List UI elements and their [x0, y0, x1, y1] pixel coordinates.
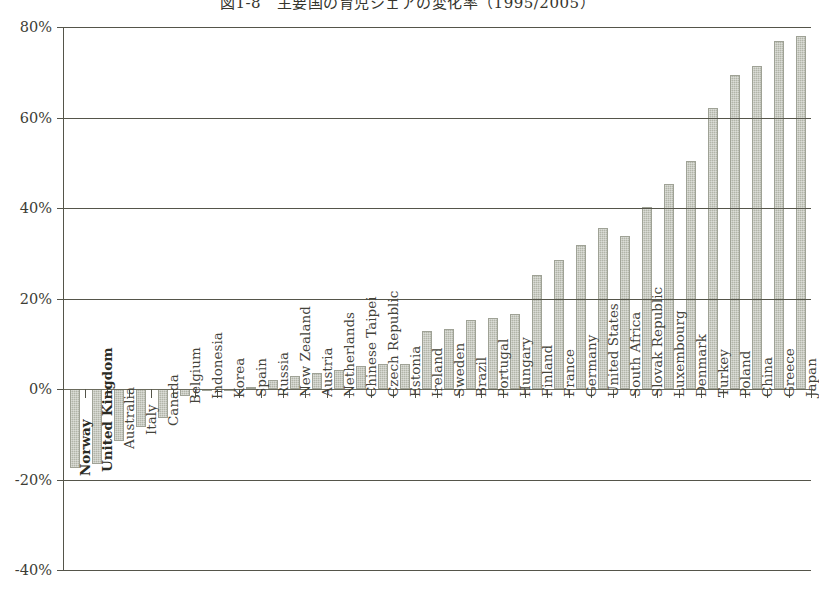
bar	[708, 108, 717, 389]
bar	[730, 75, 739, 389]
x-axis-tick-label: Australia	[123, 387, 137, 449]
x-axis-tick-label: Brazil	[475, 357, 489, 397]
y-axis-tick-label: 0%	[29, 381, 52, 397]
x-axis-tick-label: Denmark	[695, 334, 709, 397]
x-axis-tick-label: Poland	[739, 351, 753, 397]
chart-title: 図1-8 主要国の育児シェアの変化率（1995/2005）	[0, 0, 815, 12]
x-axis-tick-label: Korea	[233, 358, 247, 398]
x-axis-tick-label: Norway	[79, 420, 93, 477]
y-axis-tick-label: 80%	[20, 19, 52, 35]
x-axis-tick-label: Canada	[167, 375, 181, 427]
bar	[774, 41, 783, 389]
x-axis-tick-label: France	[563, 349, 577, 397]
x-axis-tick-label: Japan	[805, 358, 819, 397]
x-axis-tick-label: China	[761, 357, 775, 397]
bar	[752, 66, 761, 389]
x-axis-labels: NorwayUnited KingdomAustraliaItalyCanada…	[63, 389, 811, 589]
y-axis-tick-mark	[57, 118, 64, 119]
x-axis-tick-label: Estonia	[409, 346, 423, 397]
x-axis-tick-label: South Africa	[629, 312, 643, 397]
x-axis-tick-label: Hungary	[519, 337, 533, 397]
y-axis-tick-label: -20%	[15, 472, 52, 488]
x-axis-tick-label: Turkey	[717, 349, 731, 397]
x-axis-tick-label: Czech Republic	[387, 291, 401, 397]
x-axis-tick-label: Ireland	[431, 348, 445, 397]
x-axis-tick-label: Greece	[783, 348, 797, 397]
x-axis-tick-label: Russia	[277, 352, 291, 397]
y-axis-tick-mark	[57, 27, 64, 28]
x-axis-tick-label: United Kingdom	[101, 347, 115, 472]
x-axis-tick-label: Spain	[255, 358, 269, 397]
gridline	[64, 118, 811, 119]
y-axis-tick-label: 20%	[20, 291, 52, 307]
x-axis-tick-label: Sweden	[453, 343, 467, 397]
x-axis-tick-label: Chinese Taipei	[365, 296, 379, 397]
y-axis-labels: 80%60%40%20%0%-20%-40%	[0, 0, 60, 590]
y-axis-tick-mark	[57, 299, 64, 300]
y-axis-tick-label: 60%	[20, 110, 52, 126]
x-axis-tick-label: Luxembourg	[673, 310, 687, 397]
x-axis-tick-label: Slovak Republic	[651, 287, 665, 397]
bar	[796, 36, 805, 389]
y-axis-tick-label: 40%	[20, 200, 52, 216]
x-axis-tick-label: United States	[607, 303, 621, 397]
gridline	[64, 208, 811, 209]
x-axis-tick-label: New Zealand	[299, 306, 313, 397]
x-axis-tick-label: Italy	[145, 405, 159, 436]
x-axis-tick-label: Portugal	[497, 339, 511, 397]
x-axis-tick-label: Indonesia	[211, 332, 225, 399]
gridline	[64, 299, 811, 300]
x-axis-tick-label: Austria	[321, 347, 335, 397]
y-axis-tick-mark	[57, 208, 64, 209]
x-axis-tick-label: Finland	[541, 345, 555, 397]
x-axis-tick-label: Germany	[585, 335, 599, 397]
y-axis-tick-label: -40%	[15, 562, 52, 578]
gridline	[64, 27, 811, 28]
x-axis-tick-label: Belgium	[189, 347, 203, 404]
x-axis-tick-label: Netherlands	[343, 312, 357, 397]
